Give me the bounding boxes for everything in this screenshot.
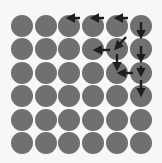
arrow-layer: [0, 0, 162, 163]
arrow-icon: [117, 37, 126, 47]
